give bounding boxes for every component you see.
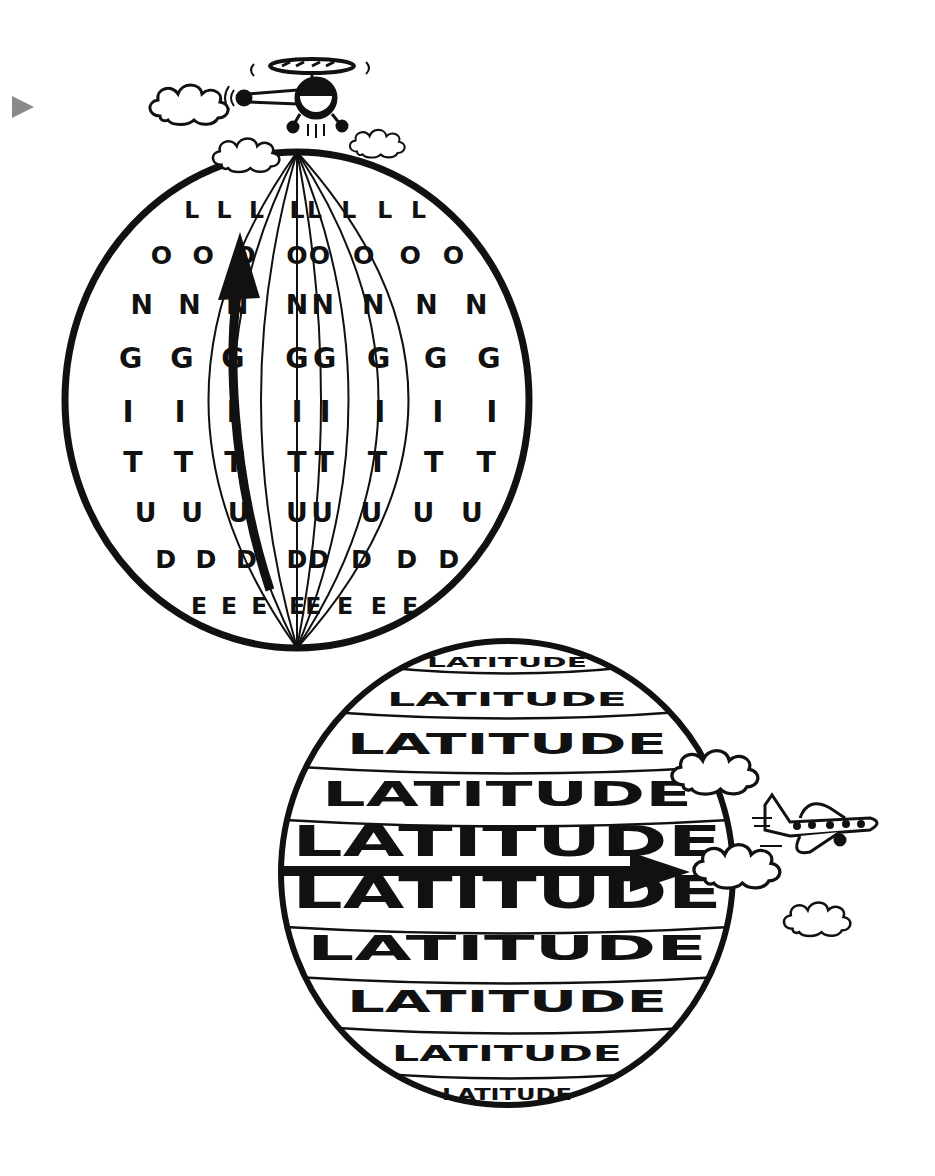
longitude-letter: I — [123, 394, 134, 429]
longitude-letter: D — [438, 545, 459, 574]
longitude-letter: O — [192, 241, 213, 270]
longitude-letter: L — [377, 196, 392, 224]
latitude-label: LATITUDE — [322, 774, 692, 814]
longitude-letter: L — [411, 196, 426, 224]
latitude-label: LATITUDE — [347, 984, 667, 1019]
cloud-icon — [150, 85, 228, 125]
longitude-letter: I — [374, 394, 385, 429]
latitude-label: LATITUDE — [392, 1041, 622, 1066]
longitude-letter: T — [314, 446, 334, 479]
longitude-letter: L — [249, 196, 264, 224]
longitude-letter: N — [415, 289, 437, 320]
longitude-letter: G — [424, 342, 447, 375]
longitude-letter: U — [181, 497, 203, 528]
longitude-letter: E — [251, 592, 267, 620]
longitude-letter: U — [311, 497, 333, 528]
longitude-letter: N — [131, 289, 153, 320]
globes-illustration: LONGITUDELONGITUDELONGITUDELONGITUDELONG… — [0, 0, 935, 1176]
latitude-label: LATITUDE — [292, 817, 722, 866]
longitude-letter: E — [305, 592, 321, 620]
longitude-letter: E — [371, 592, 387, 620]
latitude-label: LATITUDE — [427, 654, 587, 670]
longitude-letter: L — [289, 196, 304, 224]
airplane-icon — [752, 795, 877, 853]
longitude-letter: N — [312, 289, 334, 320]
longitude-letter: O — [443, 241, 464, 270]
cloud-icon — [350, 130, 405, 158]
longitude-letter: N — [362, 289, 384, 320]
longitude-letter: O — [353, 241, 374, 270]
longitude-letter: D — [308, 545, 329, 574]
longitude-letter: U — [286, 497, 308, 528]
longitude-letter: T — [424, 446, 444, 479]
longitude-letter: U — [412, 497, 434, 528]
longitude-letter: I — [432, 394, 443, 429]
longitude-letter: D — [396, 545, 417, 574]
longitude-letter: U — [461, 497, 483, 528]
longitude-letter: U — [361, 497, 383, 528]
longitude-letter: O — [309, 241, 330, 270]
longitude-letter: I — [486, 394, 497, 429]
longitude-letter: O — [151, 241, 172, 270]
longitude-letters: LONGITUDELONGITUDELONGITUDELONGITUDELONG… — [119, 196, 501, 620]
latitude-globe: LATITUDELATITUDELATITUDELATITUDELATITUDE… — [281, 641, 733, 1105]
longitude-globe: LONGITUDELONGITUDELONGITUDELONGITUDELONG… — [65, 152, 529, 648]
longitude-letter: G — [285, 342, 308, 375]
longitude-letter: N — [465, 289, 487, 320]
longitude-letter: G — [313, 342, 336, 375]
longitude-letter: T — [477, 446, 497, 479]
longitude-letter: N — [286, 289, 308, 320]
illustration-page: LONGITUDELONGITUDELONGITUDELONGITUDELONG… — [0, 0, 935, 1176]
longitude-letter: L — [341, 196, 356, 224]
longitude-letter: D — [155, 545, 176, 574]
cloud-icon — [213, 138, 279, 172]
latitude-label: LATITUDE — [347, 728, 667, 761]
longitude-letter: T — [368, 446, 388, 479]
latitude-label: LATITUDE — [307, 928, 707, 968]
latitude-label: LATITUDE — [387, 687, 627, 711]
longitude-letter: I — [291, 394, 302, 429]
longitude-letter: I — [175, 394, 186, 429]
longitude-letter: D — [196, 545, 217, 574]
longitude-letter: E — [221, 592, 237, 620]
longitude-letter: O — [399, 241, 420, 270]
longitude-letter: G — [170, 342, 193, 375]
longitude-letter: T — [174, 446, 194, 479]
longitude-letter: G — [119, 342, 142, 375]
longitude-letter: I — [319, 394, 330, 429]
cloud-icon — [672, 751, 758, 794]
longitude-letter: E — [289, 592, 305, 620]
longitude-letter: D — [287, 545, 308, 574]
longitude-letter: L — [307, 196, 322, 224]
longitude-letter: D — [351, 545, 372, 574]
longitude-letter: T — [287, 446, 307, 479]
longitude-letter: G — [367, 342, 390, 375]
cloud-icon — [784, 902, 850, 936]
longitude-letter: T — [123, 446, 143, 479]
cloud-icon — [694, 845, 780, 888]
longitude-letter: E — [191, 592, 207, 620]
longitude-letter: O — [286, 241, 307, 270]
helicopter-icon — [225, 59, 369, 138]
longitude-letter: E — [337, 592, 353, 620]
longitude-letter: G — [477, 342, 500, 375]
longitude-letter: L — [217, 196, 232, 224]
east-arrow-icon — [283, 866, 643, 876]
longitude-letter: U — [135, 497, 157, 528]
longitude-letter: N — [178, 289, 200, 320]
longitude-letter: L — [184, 196, 199, 224]
